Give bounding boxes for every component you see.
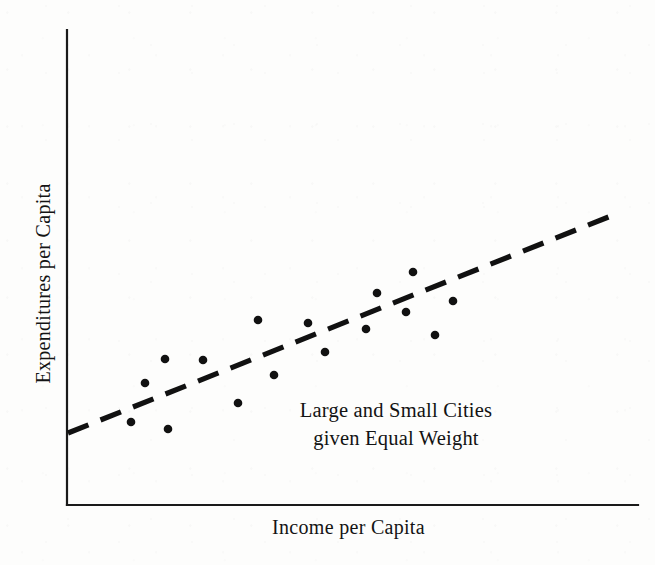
scatter-point bbox=[449, 297, 458, 306]
scatter-point bbox=[321, 348, 330, 357]
scatter-point bbox=[199, 356, 208, 365]
scatter-point bbox=[304, 319, 313, 328]
scatter-point bbox=[402, 308, 411, 317]
scatter-point bbox=[270, 371, 279, 380]
annotation-line-1: Large and Small Cities bbox=[262, 396, 530, 424]
y-axis-label: Expenditures per Capita bbox=[32, 134, 55, 434]
scatter-point bbox=[373, 289, 382, 298]
plot-canvas bbox=[0, 0, 655, 565]
scatter-point bbox=[362, 325, 371, 334]
scatter-point bbox=[409, 268, 418, 277]
scatter-point bbox=[431, 331, 440, 340]
scatter-point bbox=[164, 425, 173, 434]
scatter-point bbox=[161, 355, 170, 364]
scatter-point bbox=[254, 316, 263, 325]
scatter-point bbox=[127, 418, 136, 427]
x-axis-label: Income per Capita bbox=[0, 516, 655, 539]
scatter-point bbox=[234, 399, 243, 408]
scatter-point bbox=[141, 379, 150, 388]
scatter-plot-figure: Expenditures per Capita Income per Capit… bbox=[0, 0, 655, 565]
chart-annotation: Large and Small Cities given Equal Weigh… bbox=[262, 396, 530, 452]
annotation-line-2: given Equal Weight bbox=[262, 424, 530, 452]
